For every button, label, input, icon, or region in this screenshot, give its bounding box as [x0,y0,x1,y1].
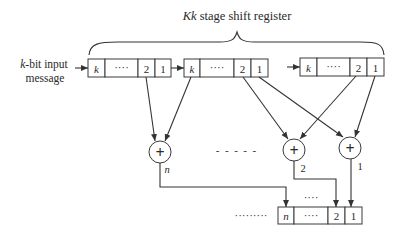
svg-text:····: ···· [114,61,129,73]
adder-1-label: 1 [357,161,362,172]
adder-gap-dashes: - - - - - [216,144,257,156]
output-register: n ···· 2 1 [278,207,362,224]
input-label-line1: k-bit input [20,58,68,71]
svg-text:2: 2 [144,63,150,75]
svg-text:1: 1 [257,63,263,75]
adder-2-label: 2 [300,163,305,174]
tap-connections [146,76,375,141]
svg-text:2: 2 [240,63,246,75]
shift-register-3: k ···· 2 1 [300,58,384,76]
register-brace [89,32,384,55]
svg-text:····: ···· [210,61,225,73]
plus-icon: + [155,144,164,161]
svg-text:1: 1 [160,63,166,75]
adder-n: + [149,141,171,163]
adder-1: + [339,137,361,159]
svg-text:1: 1 [373,62,379,74]
svg-text:n: n [283,210,289,222]
plus-icon: + [345,140,354,157]
adder-2: + [283,139,305,161]
plus-icon: + [289,142,298,159]
adder-n-label: n [164,164,169,175]
input-label-line2: message [26,72,65,85]
diagram-title: Kk stage shift register [182,9,292,23]
svg-text:2: 2 [334,210,340,222]
output-leading-dots: ········· [235,209,268,221]
output-above-dots: ···· [304,191,319,203]
shift-register-1: k ···· 2 1 [88,59,171,77]
svg-text:····: ···· [304,209,319,221]
svg-text:····: ···· [326,60,341,72]
convolutional-encoder-diagram: Kk stage shift register k-bit input mess… [0,0,403,235]
shift-register-2: k ···· 2 1 [184,59,268,77]
svg-text:1: 1 [351,210,357,222]
svg-text:2: 2 [356,62,362,74]
output-connections [160,159,351,207]
